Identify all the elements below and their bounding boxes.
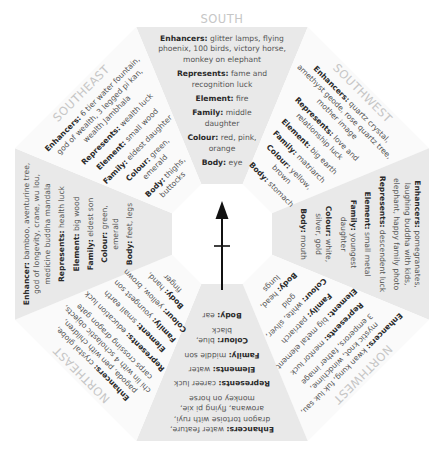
sector-line: Represents: career luck	[173, 379, 270, 388]
attribute-value: daughter	[339, 217, 348, 253]
sector-line: Family: eldest son	[86, 198, 95, 271]
sector-line: monkey on horse	[189, 394, 255, 403]
attribute-value: arowana, flying pi xie,	[180, 404, 264, 413]
sector-line: orange	[209, 144, 236, 153]
attribute-key: Represents:	[218, 379, 270, 388]
attribute-key: Body:	[299, 208, 308, 232]
attribute-value: elephant, happy family photo	[392, 178, 401, 290]
attribute-value: eldest son	[86, 198, 95, 240]
attribute-value: black	[211, 326, 232, 335]
attribute-value: green,	[100, 205, 109, 232]
attribute-key: Family:	[349, 200, 358, 231]
sector-line: Family: middle	[192, 108, 252, 117]
attribute-value: career luck	[173, 379, 218, 388]
attribute-value: dragon tortoise with ruyi,	[174, 415, 270, 424]
sector-line: daughter	[339, 217, 348, 253]
sector-line: monkey on elephant	[183, 55, 261, 64]
attribute-key: Enhancers:	[226, 425, 273, 434]
attribute-value: water feature,	[170, 425, 226, 434]
attribute-key: Colour:	[100, 232, 109, 263]
sector-line: Element: big wood	[72, 196, 81, 271]
bagua-diagram: SOUTHEnhancers: glitter lamps, flyingpho…	[0, 0, 446, 467]
sector-line: Represents: fame and	[177, 69, 267, 78]
attribute-value: emerald	[111, 218, 120, 250]
sector-line: daughter	[205, 119, 241, 128]
attribute-key: Colour:	[324, 206, 333, 237]
attribute-value: bamboo, aventurine tree,	[22, 163, 31, 262]
sector-line: Represents: descendent luck	[378, 176, 387, 293]
attribute-key: Element:	[363, 192, 372, 230]
attribute-value: god of longevity, crane, wu lou,	[32, 174, 41, 294]
sector-line: phoenix, 100 birds, victory horse,	[158, 44, 286, 53]
sector-line: Colour: red, pink,	[187, 133, 256, 142]
sector-line: Elements: water	[188, 365, 256, 374]
sector-line: Body: mouth	[299, 208, 308, 260]
attribute-key: Enhancers:	[413, 180, 422, 227]
attribute-value: phoenix, 100 birds, victory horse,	[158, 44, 286, 53]
sector-line: Enhancers: water feature,	[170, 425, 274, 434]
attribute-key: Enhancer:	[22, 262, 31, 305]
attribute-key: Family:	[192, 108, 223, 117]
sector-line: elephant, happy family photo	[392, 178, 401, 290]
sector-line: Colour: blue,	[196, 336, 248, 345]
attribute-value: feet, legs	[125, 203, 134, 241]
attribute-key: Represents:	[57, 230, 66, 282]
sector-line: Enhancers: glitter lamps, flying	[160, 34, 284, 43]
attribute-value: monkey on horse	[189, 394, 255, 403]
attribute-key: Colour:	[217, 336, 248, 345]
attribute-value: youngest	[349, 231, 358, 269]
sector-line: Body: feet, legs	[125, 203, 134, 265]
attribute-key: Elements:	[213, 365, 256, 374]
sector-line: emerald	[111, 218, 120, 250]
sector-line: Enhancers: pomegranates,	[413, 180, 422, 288]
attribute-value: mouth	[299, 233, 308, 260]
sector-line: Enhancer: bamboo, aventurine tree,	[22, 163, 31, 305]
attribute-value: middle son	[184, 351, 228, 360]
attribute-value: daughter	[205, 119, 241, 128]
sector-line: Element: fire	[196, 94, 249, 103]
sector-line: medicine buddha mandala	[43, 183, 52, 284]
north-arrow-icon	[214, 201, 230, 290]
attribute-value: pomegranates,	[413, 228, 422, 288]
attribute-value: recognition luck	[192, 80, 253, 89]
sector-line: arowana, flying pi xie,	[180, 404, 264, 413]
attribute-value: orange	[209, 144, 236, 153]
attribute-key: Represents:	[378, 176, 387, 228]
sector-line: Element: small metal	[363, 192, 372, 277]
attribute-key: Body:	[202, 158, 226, 167]
sector-line: god of longevity, crane, wu lou,	[32, 174, 41, 294]
sector-line: Family: youngest	[349, 200, 358, 269]
attribute-value: silver, gold	[314, 213, 323, 255]
sector-line: Family: middle son	[184, 351, 259, 360]
sector-line: silver, gold	[314, 213, 323, 255]
sector-line: Represents: health luck	[57, 185, 66, 282]
attribute-value: glitter lamps, flying	[208, 34, 285, 43]
attribute-value: small metal	[363, 230, 372, 277]
attribute-value: medicine buddha mandala	[43, 183, 52, 284]
attribute-value: red, pink,	[218, 133, 256, 142]
sector-line: dragon tortoise with ruyi,	[174, 415, 270, 424]
attribute-key: Element:	[72, 233, 81, 271]
sector-line: black	[211, 326, 232, 335]
attribute-value: ear	[201, 311, 217, 320]
attribute-value: middle	[223, 108, 252, 117]
attribute-value: white,	[324, 237, 333, 263]
attribute-value: blue,	[196, 336, 217, 345]
attribute-value: laughing buddha with kids,	[403, 183, 412, 286]
attribute-key: Element:	[196, 94, 234, 103]
attribute-value: fire	[234, 94, 249, 103]
attribute-key: Colour:	[187, 133, 218, 142]
attribute-value: monkey on elephant	[183, 55, 261, 64]
sector-line: Body: ear	[201, 311, 241, 320]
sector-line: recognition luck	[192, 80, 253, 89]
sector-line: Colour: green,	[100, 205, 109, 263]
attribute-value: eye	[226, 158, 243, 167]
sector-line: Colour: white,	[324, 206, 333, 262]
attribute-key: Enhancers:	[160, 34, 207, 43]
direction-label-south: SOUTH	[201, 12, 244, 26]
sector-line: laughing buddha with kids,	[403, 183, 412, 286]
attribute-key: Family:	[229, 351, 260, 360]
attribute-key: Represents:	[177, 69, 229, 78]
attribute-value: big wood	[72, 196, 81, 233]
attribute-value: fame and	[229, 69, 268, 78]
